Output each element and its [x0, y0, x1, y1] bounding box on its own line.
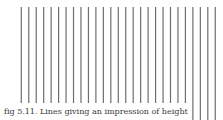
figure-caption: fig 5.11. Lines giving an impression of … [4, 105, 188, 117]
figure-page: fig 5.11. Lines giving an impression of … [0, 0, 223, 120]
vertical-lines-illustration [0, 0, 223, 120]
